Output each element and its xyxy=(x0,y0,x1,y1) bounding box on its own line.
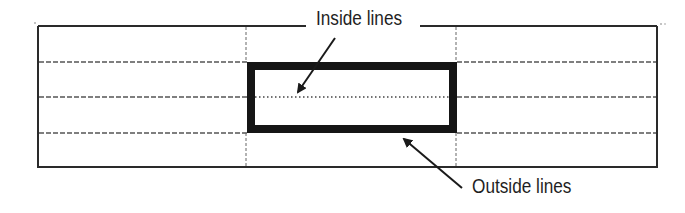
border-lines-diagram xyxy=(0,0,685,213)
outside-lines-label: Outside lines xyxy=(472,176,571,196)
corner-dot-left xyxy=(34,22,36,24)
outside-arrow xyxy=(404,139,462,188)
corner-dot-right-2 xyxy=(664,23,666,25)
inside-lines-label: Inside lines xyxy=(316,8,402,28)
corner-dot-right xyxy=(660,23,662,25)
